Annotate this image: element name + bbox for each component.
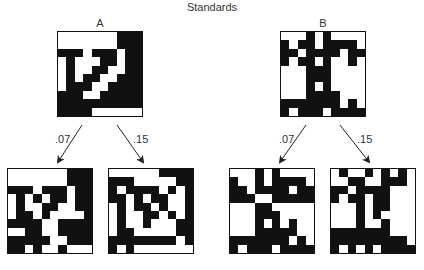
grid-cell — [306, 169, 314, 177]
grid-cell — [134, 32, 142, 40]
grid-cell — [247, 186, 255, 194]
grid-cell — [280, 177, 288, 185]
grid-cell — [25, 236, 33, 244]
grid-cell — [134, 40, 142, 48]
grid-cell — [306, 57, 314, 65]
grid-cell — [117, 236, 125, 244]
grid-cell — [58, 219, 66, 227]
grid-cell — [16, 236, 24, 244]
grid-cell — [16, 186, 24, 194]
grid-cell — [281, 91, 289, 99]
grid-cell — [58, 49, 66, 57]
grid-cell — [58, 169, 66, 177]
grid-cell — [272, 219, 280, 227]
grid-cell — [125, 66, 133, 74]
grid-cell — [297, 219, 305, 227]
grid-cell — [108, 66, 116, 74]
grid-cell — [323, 91, 331, 99]
grid-cell — [398, 236, 406, 244]
grid-cell — [50, 228, 58, 236]
grid-cell — [168, 177, 176, 185]
grid-cell — [151, 186, 159, 194]
grid-cell — [264, 194, 272, 202]
grid-cell — [348, 177, 356, 185]
grid-cell — [117, 177, 125, 185]
grid-cell — [109, 169, 117, 177]
grid-cell — [348, 228, 356, 236]
grid-cell — [92, 108, 100, 116]
grid-cell — [100, 91, 108, 99]
grid-cell — [134, 74, 142, 82]
grid-cell — [50, 219, 58, 227]
grid-cell — [323, 82, 331, 90]
grid-cell — [315, 57, 323, 65]
grid-cell — [289, 57, 297, 65]
grid-cell — [298, 66, 306, 74]
grid-cell — [50, 245, 58, 253]
grid-cell — [33, 169, 41, 177]
grid-cell — [134, 236, 142, 244]
grid-cell — [176, 194, 184, 202]
grid-cell — [289, 203, 297, 211]
grid-cell — [339, 211, 347, 219]
grid-cell — [407, 186, 415, 194]
grid-cell — [356, 169, 364, 177]
grid-cell — [331, 32, 339, 40]
grid-cell — [92, 32, 100, 40]
grid-cell — [280, 211, 288, 219]
grid-cell — [42, 186, 50, 194]
grid-cell — [264, 245, 272, 253]
grid-cell — [281, 57, 289, 65]
grid-cell — [168, 169, 176, 177]
grid-cell — [340, 108, 348, 116]
grid-cell — [125, 40, 133, 48]
grid-cell — [134, 57, 142, 65]
grid-cell — [109, 228, 117, 236]
grid-cell — [108, 40, 116, 48]
grid-cell — [331, 108, 339, 116]
result-a-07-grid — [7, 168, 93, 254]
grid-cell — [50, 211, 58, 219]
grid-cell — [185, 211, 193, 219]
grid-cell — [75, 228, 83, 236]
grid-cell — [83, 108, 91, 116]
grid-cell — [67, 177, 75, 185]
grid-cell — [373, 186, 381, 194]
grid-cell — [298, 57, 306, 65]
grid-cell — [84, 186, 92, 194]
grid-cell — [176, 186, 184, 194]
grid-cell — [16, 228, 24, 236]
grid-cell — [339, 177, 347, 185]
grid-cell — [176, 211, 184, 219]
grid-cell — [151, 211, 159, 219]
grid-cell — [315, 40, 323, 48]
grid-cell — [92, 57, 100, 65]
grid-cell — [143, 186, 151, 194]
grid-cell — [289, 66, 297, 74]
grid-cell — [134, 82, 142, 90]
grid-cell — [117, 219, 125, 227]
grid-cell — [255, 245, 263, 253]
grid-cell — [117, 40, 125, 48]
grid-cell — [357, 57, 365, 65]
grid-cell — [297, 177, 305, 185]
grid-cell — [331, 82, 339, 90]
grid-cell — [126, 169, 134, 177]
standard-b-grid — [280, 31, 366, 117]
grid-cell — [100, 74, 108, 82]
grid-cell — [230, 211, 238, 219]
grid-cell — [398, 186, 406, 194]
grid-cell — [42, 211, 50, 219]
grid-cell — [297, 236, 305, 244]
grid-cell — [58, 203, 66, 211]
grid-cell — [323, 40, 331, 48]
grid-cell — [323, 74, 331, 82]
grid-cell — [306, 40, 314, 48]
grid-cell — [66, 66, 74, 74]
grid-cell — [281, 108, 289, 116]
grid-cell — [255, 203, 263, 211]
grid-cell — [306, 74, 314, 82]
grid-cell — [306, 186, 314, 194]
grid-cell — [331, 245, 339, 253]
grid-cell — [339, 194, 347, 202]
